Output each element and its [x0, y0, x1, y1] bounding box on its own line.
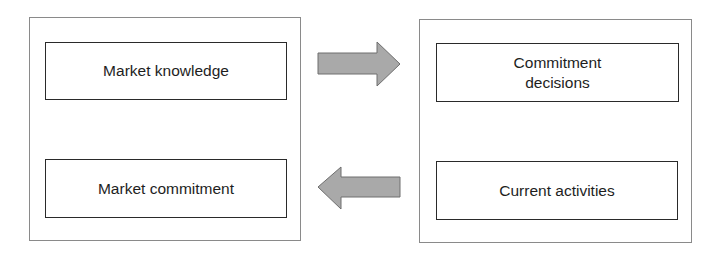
arrow-left-icon — [0, 0, 724, 259]
